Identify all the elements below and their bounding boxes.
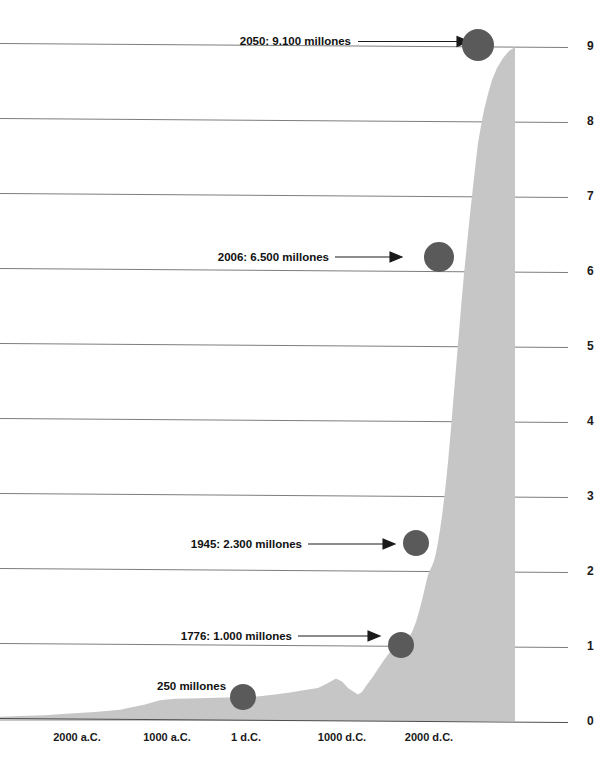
marker-1945[interactable]	[403, 530, 429, 556]
y-tick-2: 2	[587, 564, 607, 578]
annotation-1776: 1776: 1.000 millones	[52, 630, 292, 642]
population-area-series	[0, 47, 515, 721]
y-tick-5: 5	[587, 339, 607, 353]
y-tick-7: 7	[587, 189, 607, 203]
x-tick-2000-ac: 2000 a.C.	[53, 731, 101, 743]
chart-canvas	[0, 0, 613, 764]
arrow-1776	[298, 631, 380, 641]
arrow-2050	[358, 37, 469, 47]
arrow-2006	[335, 252, 402, 262]
marker-1776[interactable]	[388, 632, 414, 658]
x-tick-1000-dc: 1000 d.C.	[318, 731, 366, 743]
annotation-2006: 2006: 6.500 millones	[89, 251, 329, 263]
y-tick-9: 9	[587, 39, 607, 53]
y-tick-1: 1	[587, 639, 607, 653]
annotation-1945: 1945: 2.300 millones	[62, 538, 302, 550]
y-tick-4: 4	[587, 414, 607, 428]
marker-2050[interactable]	[462, 29, 494, 61]
y-tick-8: 8	[587, 114, 607, 128]
y-tick-6: 6	[587, 264, 607, 278]
y-tick-3: 3	[587, 489, 607, 503]
y-tick-0: 0	[587, 714, 607, 728]
annotation-250-millones: 250 millones	[157, 680, 317, 692]
population-growth-chart: 9 8 7 6 5 4 3 2 1 0 2000 a.C. 1000 a.C. …	[0, 0, 613, 764]
x-tick-1000-ac: 1000 a.C.	[143, 731, 191, 743]
x-tick-2000-dc: 2000 d.C.	[405, 731, 453, 743]
arrow-1945	[308, 539, 395, 549]
annotation-2050: 2050: 9.100 millones	[111, 35, 351, 47]
area-fill	[0, 47, 515, 721]
x-tick-1-dc: 1 d.C.	[231, 731, 261, 743]
marker-2006[interactable]	[424, 242, 454, 272]
